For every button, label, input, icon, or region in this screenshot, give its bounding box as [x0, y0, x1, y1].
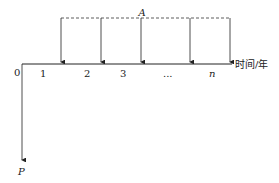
period-label-n: n — [209, 68, 215, 79]
period-label-2: 2 — [84, 68, 90, 79]
period-label-3: 3 — [120, 68, 126, 79]
annuity-label: A — [137, 7, 145, 18]
cash-flow-diagram: A P 时间/年 0 1 2 3 ... n — [0, 0, 279, 183]
period-label-ellipsis: ... — [163, 68, 173, 79]
period-label-1: 1 — [40, 68, 46, 79]
axis-label: 时间/年 — [235, 58, 268, 70]
origin-label: 0 — [14, 67, 20, 78]
present-value-label: P — [17, 166, 25, 177]
annuity-arrows — [61, 18, 230, 62]
